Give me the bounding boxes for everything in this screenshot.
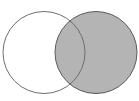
venn-diagram bbox=[0, 0, 139, 101]
